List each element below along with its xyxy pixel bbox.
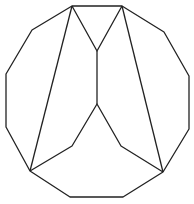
dissection-line <box>30 6 72 171</box>
dissection-line <box>122 6 163 172</box>
dodecagon-dissection-diagram <box>0 0 194 204</box>
dissection-line <box>30 104 163 172</box>
dissection-lines <box>30 6 163 172</box>
dissection-line <box>72 6 122 51</box>
